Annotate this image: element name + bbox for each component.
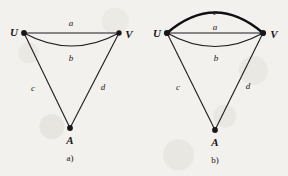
vertex-label-U: U [153,28,161,39]
figure-page: U V A a b c d a) U V A e a [0,0,288,176]
edge-label-b: b [214,54,219,63]
edge-b-arc [24,33,119,46]
graph-panel-b: U V A e a b c d b) [144,0,288,176]
edge-d-line [215,33,263,130]
edge-label-b: b [69,54,74,63]
edge-c-line [24,33,70,128]
edge-label-e: e [213,8,217,17]
edge-b-arc [167,33,263,47]
vertex-label-U: U [10,27,18,38]
vertex-label-V: V [125,29,132,40]
vertex-A-dot [67,125,73,131]
vertex-V-dot [116,30,121,35]
vertex-A-dot [212,127,218,133]
edge-d-line [70,33,119,128]
vertex-label-A: A [211,137,218,148]
edge-label-d: d [101,83,106,92]
edge-label-a: a [69,19,74,28]
edge-label-c: c [31,84,35,93]
graph-panel-a: U V A a b c d a) [0,0,144,176]
vertex-U-dot [21,30,27,36]
edge-c-line [167,33,215,130]
edge-label-d: d [246,82,251,91]
vertex-U-dot [164,30,170,36]
vertex-V-dot [260,30,266,36]
edge-label-c: c [176,83,180,92]
edge-label-a: a [213,23,218,32]
panel-caption-a: a) [67,154,74,163]
vertex-label-A: A [66,135,73,146]
panel-caption-b: b) [211,156,219,165]
vertex-label-V: V [270,29,277,40]
